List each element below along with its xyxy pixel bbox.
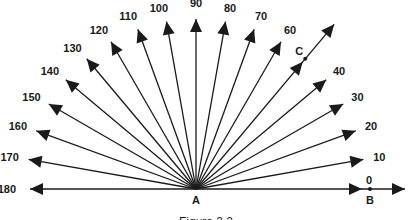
ray-130: 130 bbox=[63, 42, 196, 189]
arrowhead-icon bbox=[49, 104, 63, 116]
arrowhead-icon bbox=[30, 183, 43, 195]
angle-label-120: 120 bbox=[90, 24, 108, 36]
arrowhead-icon bbox=[269, 42, 281, 56]
arrowhead-icon bbox=[137, 29, 148, 43]
angle-label-150: 150 bbox=[22, 91, 40, 103]
arrowhead-icon bbox=[36, 130, 50, 141]
arrowhead-icon bbox=[329, 104, 343, 116]
point-b-label: B bbox=[366, 194, 374, 206]
arrowhead-icon bbox=[66, 80, 80, 93]
ray-10: 10 bbox=[196, 151, 385, 189]
arrowhead-icon bbox=[87, 59, 100, 73]
angle-label-40: 40 bbox=[333, 65, 345, 77]
arrowhead-icon bbox=[111, 42, 123, 56]
ray-180: 180 bbox=[0, 183, 196, 195]
ray-170: 170 bbox=[0, 151, 196, 189]
arrowhead-icon bbox=[341, 130, 355, 141]
ray-120: 120 bbox=[90, 24, 196, 189]
angle-label-60: 60 bbox=[284, 24, 296, 36]
ray-0: 0 bbox=[196, 174, 372, 189]
angle-label-20: 20 bbox=[365, 120, 377, 132]
arrowhead-icon bbox=[392, 183, 405, 195]
point-b bbox=[368, 187, 372, 191]
angle-label-70: 70 bbox=[255, 10, 267, 22]
arrowhead-icon bbox=[349, 183, 362, 195]
angle-label-100: 100 bbox=[150, 2, 168, 14]
angle-label-80: 80 bbox=[224, 2, 236, 14]
angle-label-140: 140 bbox=[41, 65, 59, 77]
origin-label: A bbox=[192, 194, 200, 206]
angle-label-130: 130 bbox=[63, 42, 81, 54]
angle-label-10: 10 bbox=[373, 151, 385, 163]
protractor-ray-diagram: 0102030406070809010011012013014015016017… bbox=[0, 0, 414, 220]
arrowhead-icon bbox=[217, 22, 229, 36]
arrowhead-icon bbox=[244, 29, 255, 43]
arrowhead-icon bbox=[163, 22, 175, 36]
arrowhead-icon bbox=[350, 156, 364, 168]
ray-70: 70 bbox=[196, 10, 267, 189]
arrowhead-icon bbox=[312, 80, 326, 93]
ray-110: 110 bbox=[119, 10, 196, 189]
angle-label-30: 30 bbox=[351, 91, 363, 103]
arrowhead-icon bbox=[190, 19, 202, 32]
point-c-label: C bbox=[295, 45, 303, 57]
point-c bbox=[303, 57, 307, 61]
angle-label-170: 170 bbox=[0, 151, 18, 163]
arrowhead-icon bbox=[321, 24, 334, 38]
arrowhead-icon bbox=[29, 156, 43, 168]
figure-caption: Figure 2.2 bbox=[179, 215, 233, 220]
angle-label-90: 90 bbox=[190, 0, 202, 9]
angle-label-160: 160 bbox=[9, 120, 27, 132]
arrowhead-icon bbox=[290, 62, 303, 76]
angle-label-180: 180 bbox=[0, 183, 16, 195]
angle-label-0: 0 bbox=[366, 174, 372, 186]
angle-label-110: 110 bbox=[119, 10, 137, 22]
